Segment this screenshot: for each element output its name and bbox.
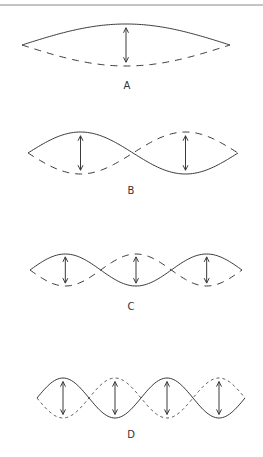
- wave-solid-b: [28, 132, 238, 174]
- amplitude-arrow-icon: [217, 382, 222, 415]
- panel-label-d: D: [127, 429, 135, 440]
- wave-panel-c: [30, 254, 242, 286]
- amplitude-arrow-icon: [183, 136, 188, 170]
- wave-panel-a: [22, 24, 230, 66]
- wave-panel-d: [37, 378, 245, 418]
- panel-label-b: B: [128, 185, 135, 196]
- amplitude-arrow-icon: [113, 382, 118, 415]
- wave-panel-b: [28, 132, 238, 174]
- panel-label-c: C: [128, 301, 135, 312]
- amplitude-arrow-icon: [78, 136, 83, 170]
- amplitude-arrow-icon: [63, 257, 68, 283]
- amplitude-arrow-icon: [165, 382, 170, 415]
- standing-wave-figure: A B C D: [0, 0, 263, 457]
- amplitude-arrow-icon: [61, 382, 66, 415]
- panel-label-a: A: [124, 80, 131, 91]
- amplitude-arrow-icon: [134, 257, 139, 283]
- amplitude-arrow-icon: [204, 257, 209, 283]
- amplitude-arrow-icon: [124, 28, 129, 62]
- wave-solid-d: [37, 378, 245, 418]
